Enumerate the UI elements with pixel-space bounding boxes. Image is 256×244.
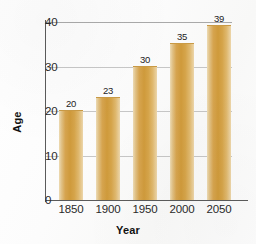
bar-1850 — [59, 110, 83, 200]
bar-slot-1950: 30 — [133, 22, 157, 200]
x-tick-label-2050: 2050 — [207, 203, 232, 215]
bar-value-label-2000: 35 — [177, 31, 187, 42]
x-axis-title: Year — [0, 224, 256, 236]
x-tick-label-2000: 2000 — [170, 203, 195, 215]
y-axis-title: Age — [11, 111, 23, 132]
bar-value-label-1900: 23 — [103, 85, 113, 96]
x-tick-label-1950: 1950 — [133, 203, 158, 215]
x-tick-labels: 1850 1900 1950 2000 2050 — [45, 203, 248, 221]
x-tick-label-1900: 1900 — [96, 203, 121, 215]
bar-slot-1900: 23 — [96, 22, 120, 200]
bar-slot-1850: 20 — [59, 22, 83, 200]
x-tick-label-1850: 1850 — [59, 203, 84, 215]
bar-2050 — [207, 25, 231, 200]
bar-slot-2000: 35 — [170, 22, 194, 200]
bar-value-label-2050: 39 — [214, 13, 224, 24]
bar-value-label-1850: 20 — [66, 98, 76, 109]
x-axis-line — [45, 200, 248, 201]
bar-1900 — [96, 97, 120, 200]
bar-slot-2050: 39 — [207, 22, 231, 200]
bar-chart: 40 30 20 10 0 20 23 30 35 39 1850 1900 — [0, 0, 256, 244]
bar-series: 20 23 30 35 39 — [45, 22, 248, 200]
bar-2000 — [170, 43, 194, 200]
bar-1950 — [133, 66, 157, 201]
bar-value-label-1950: 30 — [140, 54, 150, 65]
